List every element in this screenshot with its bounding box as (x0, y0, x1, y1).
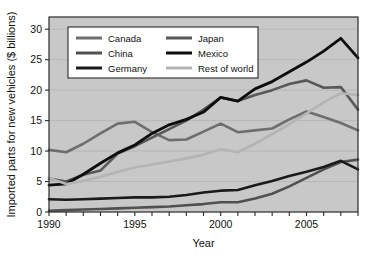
legend-label-rest-of-world: Rest of world (198, 63, 253, 74)
y-tick-label: 5 (36, 175, 42, 187)
x-tick-label: 2005 (295, 218, 319, 230)
legend-label-japan: Japan (198, 33, 224, 44)
y-tick-label: 25 (30, 53, 42, 65)
x-tick-label: 1995 (123, 218, 147, 230)
legend-label-mexico: Mexico (198, 48, 228, 59)
y-tick-label: 10 (30, 145, 42, 157)
legend-label-germany: Germany (108, 63, 147, 74)
y-tick-label: 0 (36, 206, 42, 218)
y-axis-title: Imported parts for new vehicles ($ billi… (5, 11, 17, 217)
x-axis-title: Year (192, 237, 215, 249)
x-tick-label: 2000 (209, 218, 233, 230)
y-tick-label: 20 (30, 84, 42, 96)
legend-label-china: China (108, 48, 134, 59)
chart-figure: 0510152025301990199520002005YearImported… (0, 0, 380, 262)
legend-label-canada: Canada (108, 33, 142, 44)
y-tick-label: 15 (30, 114, 42, 126)
line-chart: 0510152025301990199520002005YearImported… (0, 0, 380, 262)
y-tick-label: 30 (30, 23, 42, 35)
x-tick-label: 1990 (37, 218, 61, 230)
